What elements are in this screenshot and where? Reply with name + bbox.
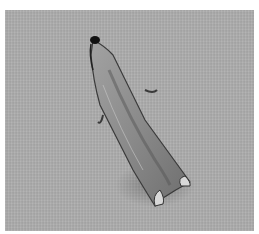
moth-photo bbox=[5, 10, 254, 231]
moth-head bbox=[90, 36, 100, 44]
moth-illustration bbox=[5, 10, 254, 231]
moth-leg-right bbox=[145, 90, 157, 92]
moth-leg-left bbox=[98, 115, 103, 123]
moth-wings bbox=[91, 40, 190, 206]
